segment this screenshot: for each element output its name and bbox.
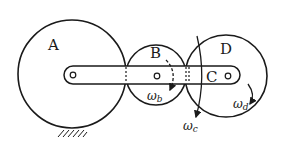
omega-d-arrow-icon [248, 84, 253, 104]
gear-train-diagram: A B C D ωb ωc ωd [0, 0, 287, 154]
pivot-a [70, 72, 76, 78]
label-omega-d: ωd [233, 98, 249, 112]
label-a: A [48, 38, 59, 53]
label-omega-b: ωb [147, 90, 163, 104]
label-c: C [206, 70, 217, 85]
pivot-c [225, 73, 231, 79]
label-d: D [220, 42, 232, 57]
label-omega-c: ωc [183, 120, 198, 134]
label-b: B [150, 46, 161, 61]
ground-hatch-icon [58, 130, 87, 137]
pivot-b [154, 73, 160, 79]
diagram-canvas [0, 0, 287, 154]
